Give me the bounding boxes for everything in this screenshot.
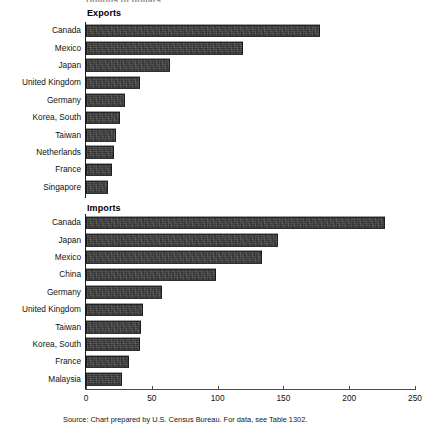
x-axis-tick-label: 250: [408, 393, 422, 403]
x-axis-tick: [152, 386, 153, 391]
bar-row: United Kingdom: [0, 74, 428, 91]
bar-row: Malaysia: [0, 371, 428, 388]
units-caption: Billions of dollars: [86, 0, 161, 2]
bar-row: France: [0, 353, 428, 370]
bar: [86, 373, 122, 386]
exports-bar-rows: CanadaMexicoJapanUnited KingdomGermanyKo…: [0, 22, 428, 198]
x-axis-tick: [349, 386, 350, 391]
bar: [86, 77, 140, 90]
exports-panel-heading: Exports: [87, 8, 121, 18]
category-label: Mexico: [0, 253, 81, 262]
bar-row: Taiwan: [0, 318, 428, 335]
bar-row: Germany: [0, 92, 428, 109]
x-axis-tick: [415, 386, 416, 391]
category-label: France: [0, 165, 81, 174]
bar: [86, 146, 114, 159]
x-axis-tick: [283, 386, 284, 391]
category-label: Mexico: [0, 44, 81, 53]
x-axis: 050100150200250: [0, 389, 428, 413]
bar: [86, 111, 120, 124]
x-axis-tick-label: 50: [147, 393, 156, 403]
category-label: United Kingdom: [0, 78, 81, 87]
x-axis-tick-label: 150: [276, 393, 290, 403]
bar-row: Mexico: [0, 39, 428, 56]
category-label: China: [0, 270, 81, 279]
category-label: Korea, South: [0, 113, 81, 122]
imports-bar-rows: CanadaJapanMexicoChinaGermanyUnited King…: [0, 214, 428, 390]
x-axis-rule: [85, 389, 416, 390]
x-axis-tick-label: 200: [342, 393, 356, 403]
bar: [86, 286, 162, 299]
category-label: Taiwan: [0, 131, 81, 140]
bar: [86, 129, 116, 142]
exports-plot-area: CanadaMexicoJapanUnited KingdomGermanyKo…: [0, 22, 428, 198]
bar-row: Korea, South: [0, 109, 428, 126]
bar: [86, 234, 278, 247]
source-note: Source: Chart prepared by U.S. Census Bu…: [63, 415, 307, 424]
bar: [86, 181, 108, 194]
bar-row: Taiwan: [0, 126, 428, 143]
bar: [86, 303, 143, 316]
bar-row: France: [0, 161, 428, 178]
category-label: United Kingdom: [0, 305, 81, 314]
imports-plot-area: CanadaJapanMexicoChinaGermanyUnited King…: [0, 214, 428, 390]
category-label: Japan: [0, 61, 81, 70]
category-label: Singapore: [0, 183, 81, 192]
category-label: Germany: [0, 96, 81, 105]
bar-row: Japan: [0, 231, 428, 248]
category-label: Canada: [0, 218, 81, 227]
bar-row: Korea, South: [0, 336, 428, 353]
bar-row: United Kingdom: [0, 301, 428, 318]
bar: [86, 338, 140, 351]
category-label: Germany: [0, 288, 81, 297]
bar: [86, 356, 129, 369]
category-label: Japan: [0, 236, 81, 245]
bar-row: China: [0, 266, 428, 283]
bar-row: Singapore: [0, 179, 428, 196]
bar: [86, 24, 320, 37]
bar-row: Mexico: [0, 249, 428, 266]
bar-row: Canada: [0, 214, 428, 231]
bar-row: Canada: [0, 22, 428, 39]
bar-row: Netherlands: [0, 144, 428, 161]
category-label: Taiwan: [0, 323, 81, 332]
x-axis-tick: [86, 386, 87, 391]
bar: [86, 164, 112, 177]
trade-bar-chart: Billions of dollars Exports CanadaMexico…: [0, 0, 428, 436]
imports-panel-heading: Imports: [87, 203, 121, 213]
category-label: Canada: [0, 26, 81, 35]
category-label: Korea, South: [0, 340, 81, 349]
bar: [86, 216, 385, 229]
category-label: Netherlands: [0, 148, 81, 157]
bar-row: Japan: [0, 57, 428, 74]
bar: [86, 59, 170, 72]
bar-row: Germany: [0, 284, 428, 301]
bar: [86, 269, 216, 282]
x-axis-tick-label: 100: [211, 393, 225, 403]
x-axis-tick: [218, 386, 219, 391]
bar: [86, 94, 125, 107]
bar: [86, 42, 243, 55]
bar: [86, 321, 141, 334]
category-label: France: [0, 357, 81, 366]
bar: [86, 251, 262, 264]
x-axis-tick-label: 0: [84, 393, 89, 403]
category-label: Malaysia: [0, 375, 81, 384]
